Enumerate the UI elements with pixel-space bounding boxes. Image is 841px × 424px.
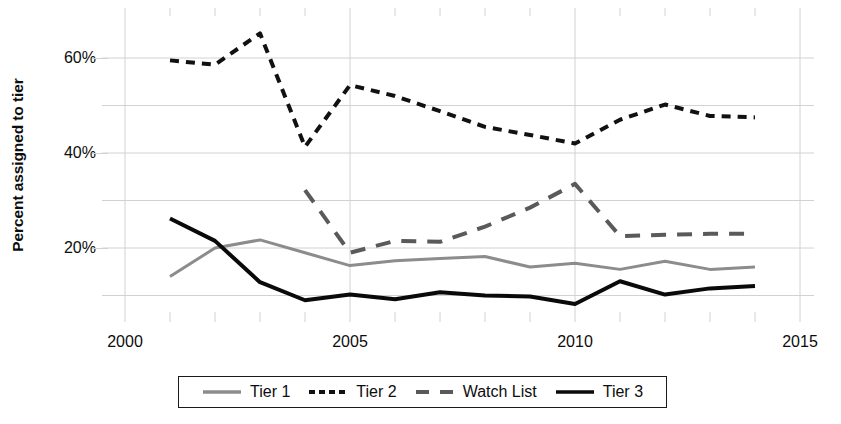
plot-svg (102, 8, 824, 326)
y-axis-title-text: Percent assigned to tier (9, 78, 27, 251)
y-tick-label: 20% (40, 239, 96, 257)
legend-label: Tier 3 (603, 383, 643, 401)
y-tick-label: 40% (40, 144, 96, 162)
legend-label: Tier 1 (250, 383, 290, 401)
grid-lines (102, 8, 814, 322)
axis-tick-marks (170, 8, 755, 322)
plot-area (102, 8, 824, 326)
legend-swatch-longdash-icon (415, 386, 455, 398)
series-line-watch-list (305, 184, 755, 253)
y-tick-label: 60% (40, 49, 96, 67)
legend-item-tier-3[interactable]: Tier 3 (546, 383, 652, 401)
legend-item-watch-list[interactable]: Watch List (406, 383, 546, 401)
legend-label: Tier 2 (356, 383, 396, 401)
y-axis-tick-labels: 60%40%20% (30, 0, 96, 424)
series-line-tier-2 (170, 33, 755, 147)
series-line-tier-1 (170, 240, 755, 277)
x-tick-label: 2005 (332, 333, 368, 351)
legend-item-tier-1[interactable]: Tier 1 (193, 383, 299, 401)
x-tick-label: 2000 (107, 333, 143, 351)
chart-legend: Tier 1Tier 2Watch ListTier 3 (178, 376, 667, 408)
legend-swatch-solid-icon (202, 386, 242, 398)
legend-swatch-dashed-icon (308, 386, 348, 398)
legend-swatch-solid-icon (555, 386, 595, 398)
legend-label: Watch List (463, 383, 537, 401)
x-tick-label: 2010 (557, 333, 593, 351)
line-chart: Percent assigned to tier 60%40%20% 20002… (0, 0, 841, 424)
x-tick-label: 2015 (782, 333, 818, 351)
legend-item-tier-2[interactable]: Tier 2 (299, 383, 405, 401)
series-lines (170, 33, 755, 304)
x-axis-tick-labels: 2000200520102015 (0, 333, 841, 359)
